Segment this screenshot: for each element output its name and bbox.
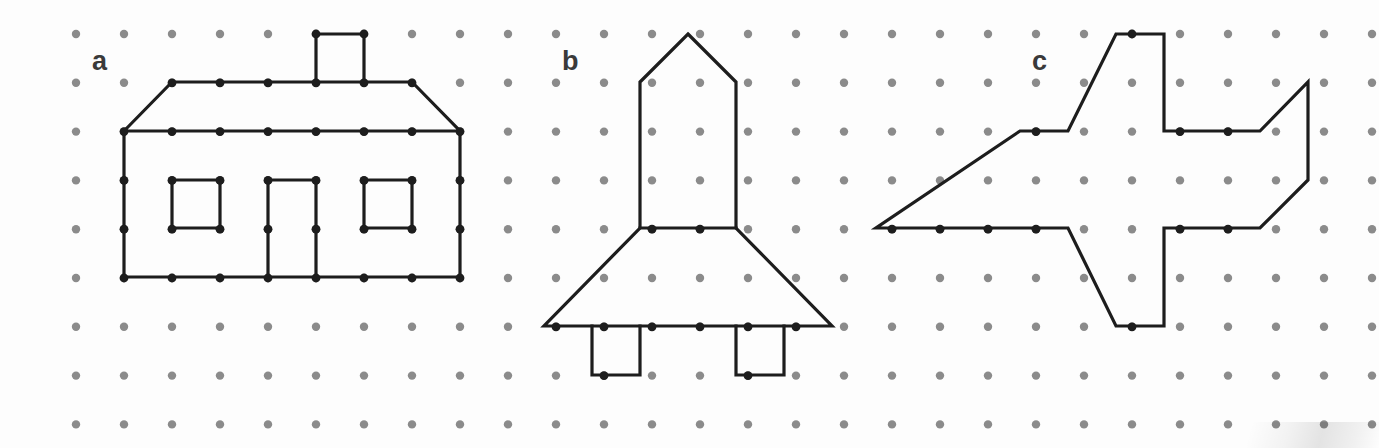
shape-vertex-dot: [1128, 322, 1137, 331]
shape-vertex-dot: [936, 225, 945, 234]
grid-dot: [1272, 30, 1280, 38]
grid-dot: [1128, 127, 1136, 135]
grid-dot: [840, 323, 848, 331]
grid-dot: [552, 176, 560, 184]
grid-dot: [504, 79, 512, 87]
grid-dot: [72, 371, 80, 379]
grid-dot: [1368, 79, 1376, 87]
grid-dot: [600, 274, 608, 282]
grid-dot: [456, 420, 464, 428]
grid-dot: [216, 30, 224, 38]
grid-dot: [792, 79, 800, 87]
grid-dot: [1032, 176, 1040, 184]
shape-vertex-dot: [408, 274, 417, 283]
shape-vertex-dot: [408, 127, 417, 136]
shape-vertex-dot: [696, 322, 705, 331]
grid-dot: [840, 176, 848, 184]
shape-vertex-dot: [168, 225, 177, 234]
grid-dot: [72, 176, 80, 184]
grid-dot: [360, 371, 368, 379]
shape-vertex-dot: [216, 127, 225, 136]
grid-dot: [1368, 420, 1376, 428]
shape-vertex-dot: [216, 176, 225, 185]
grid-dot: [552, 371, 560, 379]
shape-vertex-dot: [456, 176, 465, 185]
shape-vertex-dot: [264, 225, 273, 234]
shape-vertex-dot: [408, 225, 417, 234]
grid-dot: [456, 323, 464, 331]
grid-dot: [1320, 127, 1328, 135]
grid-dot: [936, 79, 944, 87]
grid-dot: [1320, 371, 1328, 379]
shape-vertex-dot: [264, 127, 273, 136]
grid-dot: [168, 30, 176, 38]
grid-dot: [600, 420, 608, 428]
grid-dot: [1224, 420, 1232, 428]
grid-dot: [1128, 371, 1136, 379]
grid-dot: [984, 323, 992, 331]
shape-vertex-dot: [312, 225, 321, 234]
grid-dot: [1320, 274, 1328, 282]
grid-dot: [72, 274, 80, 282]
grid-dot: [840, 420, 848, 428]
grid-dot: [696, 371, 704, 379]
grid-dot: [792, 371, 800, 379]
rocket-outline: [544, 34, 832, 326]
grid-dot: [1368, 274, 1376, 282]
grid-dot: [1224, 79, 1232, 87]
grid-dot: [744, 127, 752, 135]
grid-dot: [1176, 176, 1184, 184]
shape-vertex-dot: [648, 225, 657, 234]
grid-dot: [984, 127, 992, 135]
grid-dot: [1176, 274, 1184, 282]
grid-dot: [744, 274, 752, 282]
grid-dot: [312, 420, 320, 428]
grid-dot: [936, 274, 944, 282]
grid-dot: [1128, 176, 1136, 184]
worksheet-canvas: abc: [0, 0, 1379, 448]
grid-dot: [696, 274, 704, 282]
grid-dot: [1032, 30, 1040, 38]
shape-vertex-dot: [888, 225, 897, 234]
grid-dot: [216, 371, 224, 379]
shape-vertex-dot: [360, 127, 369, 136]
grid-dot: [408, 420, 416, 428]
shape-vertex-dot: [168, 176, 177, 185]
grid-dot: [264, 371, 272, 379]
grid-dot: [1224, 30, 1232, 38]
grid-dot: [1368, 225, 1376, 233]
grid-dot: [264, 420, 272, 428]
grid-dot: [1368, 323, 1376, 331]
grid-dot: [456, 30, 464, 38]
grid-dot: [1128, 79, 1136, 87]
grid-dot: [1272, 371, 1280, 379]
shape-vertex-dot: [792, 322, 801, 331]
grid-dot: [648, 30, 656, 38]
shape-vertex-dot: [216, 78, 225, 87]
grid-dot: [168, 371, 176, 379]
grid-dot: [936, 371, 944, 379]
grid-dot: [936, 30, 944, 38]
grid-dot: [600, 30, 608, 38]
door: [268, 180, 316, 277]
shape-vertex-dot: [216, 274, 225, 283]
chimney: [316, 34, 364, 82]
grid-dot: [552, 79, 560, 87]
grid-dot: [840, 274, 848, 282]
grid-dot: [504, 323, 512, 331]
label-c: c: [1032, 46, 1047, 76]
grid-dot: [984, 420, 992, 428]
grid-dot: [1032, 79, 1040, 87]
grid-dot: [696, 176, 704, 184]
grid-dot: [120, 323, 128, 331]
shape-vertex-dot: [312, 274, 321, 283]
grid-dot: [840, 371, 848, 379]
grid-dot: [888, 323, 896, 331]
grid-dot: [168, 420, 176, 428]
grid-dot: [504, 274, 512, 282]
grid-dot: [648, 274, 656, 282]
grid-dot: [72, 420, 80, 428]
shape-vertex-dot: [984, 225, 993, 234]
grid-dot: [1032, 274, 1040, 282]
grid-dot: [744, 176, 752, 184]
